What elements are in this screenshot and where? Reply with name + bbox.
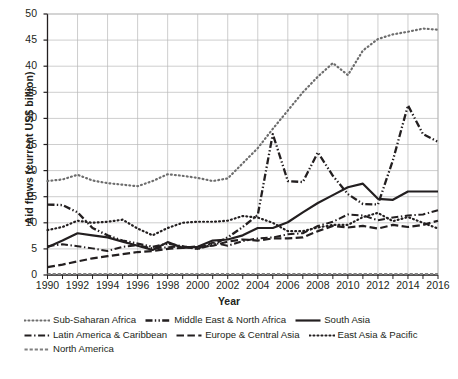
- legend-label: North America: [53, 342, 114, 356]
- legend-label: East Asia & Pacific: [338, 328, 418, 342]
- aid-flows-line-chart: Aid flows (current US$ billion) 05101520…: [0, 0, 458, 379]
- legend-key: [145, 315, 171, 324]
- legend-line-key: [145, 316, 171, 325]
- legend-line-key: [309, 331, 335, 340]
- chart-legend: Sub-Saharan AfricaMiddle East & North Af…: [24, 312, 444, 356]
- legend-item[interactable]: Europe & Central Asia: [176, 327, 299, 341]
- legend-key: [309, 330, 335, 339]
- legend-line-key: [295, 316, 321, 325]
- legend-key: [176, 330, 202, 339]
- legend-label: Latin America & Caribbean: [53, 328, 167, 342]
- legend-label: Middle East & North Africa: [174, 313, 286, 327]
- legend-key: [24, 315, 50, 324]
- legend-item[interactable]: Middle East & North Africa: [145, 312, 286, 326]
- legend-label: Europe & Central Asia: [205, 328, 299, 342]
- legend-key: [24, 330, 50, 339]
- legend-item[interactable]: Sub-Saharan Africa: [24, 312, 136, 326]
- legend-item[interactable]: Latin America & Caribbean: [24, 327, 167, 341]
- legend-key: [24, 344, 50, 353]
- legend-row: Latin America & CaribbeanEurope & Centra…: [24, 327, 444, 342]
- legend-label: Sub-Saharan Africa: [53, 313, 136, 327]
- legend-item[interactable]: East Asia & Pacific: [309, 327, 418, 341]
- legend-row: Sub-Saharan AfricaMiddle East & North Af…: [24, 312, 444, 327]
- legend-line-key: [24, 345, 50, 354]
- legend-key: [295, 315, 321, 324]
- legend-line-key: [24, 331, 50, 340]
- legend-item[interactable]: South Asia: [295, 312, 370, 326]
- x-axis-title: Year: [0, 295, 458, 307]
- legend-item[interactable]: North America: [24, 342, 114, 356]
- legend-label: South Asia: [324, 313, 370, 327]
- legend-row: North America: [24, 341, 444, 356]
- legend-line-key: [24, 316, 50, 325]
- x-tick-label: 2016: [418, 280, 458, 291]
- legend-line-key: [176, 331, 202, 340]
